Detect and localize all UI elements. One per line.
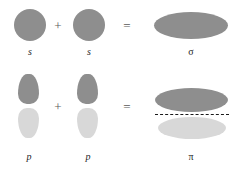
nodal-plane-dashed-line bbox=[155, 114, 229, 115]
sigma-orbital-lobe bbox=[154, 12, 228, 39]
p-orbital-right-label: p bbox=[68, 152, 108, 162]
plus-operator-top: + bbox=[50, 19, 66, 32]
sigma-orbital-label: σ bbox=[171, 47, 211, 57]
s-orbital-right-lobe bbox=[73, 9, 105, 41]
p-orbital-left-label: p bbox=[9, 152, 49, 162]
orbital-overlap-figure: + = s s σ + = p p π bbox=[0, 0, 233, 170]
p-orbital-left-upper-lobe bbox=[18, 74, 39, 104]
s-orbital-left-label: s bbox=[10, 47, 50, 57]
p-orbital-right-upper-lobe bbox=[77, 74, 98, 104]
plus-operator-bottom: + bbox=[50, 100, 66, 113]
s-orbital-right-label: s bbox=[69, 47, 109, 57]
pi-orbital-label: π bbox=[171, 152, 211, 162]
p-orbital-left-lower-lobe bbox=[18, 108, 39, 138]
equals-operator-bottom: = bbox=[119, 100, 135, 113]
pi-orbital-lower-lobe bbox=[158, 117, 226, 139]
equals-operator-top: = bbox=[119, 19, 135, 32]
p-orbital-right-lower-lobe bbox=[77, 108, 98, 138]
s-orbital-left-lobe bbox=[14, 9, 46, 41]
pi-orbital-upper-lobe bbox=[155, 88, 228, 112]
